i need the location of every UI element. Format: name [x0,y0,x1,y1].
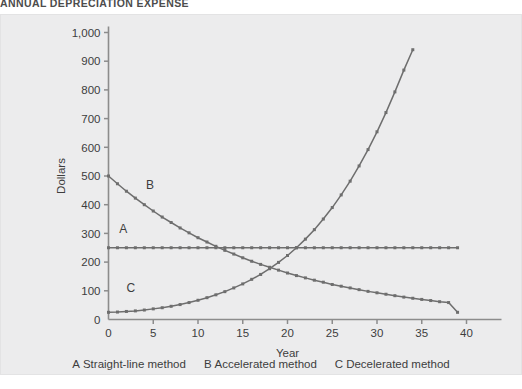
series-marker-c [214,293,217,296]
series-marker-c [304,238,307,241]
y-tick-label: 1,000 [72,27,101,39]
series-marker-a [179,246,182,249]
series-marker-c [277,261,280,264]
series-a [107,246,459,249]
series-marker-a [402,246,405,249]
series-marker-a [241,246,244,249]
series-marker-a [438,246,441,249]
series-marker-c [268,267,271,270]
series-marker-b [447,301,450,304]
series-marker-a [384,246,387,249]
series-marker-a [349,246,352,249]
series-marker-c [411,48,414,51]
y-tick-label: 500 [81,170,100,182]
series-marker-b [241,256,244,259]
series-marker-c [259,273,262,276]
series-marker-b [152,210,155,213]
series-marker-b [205,241,208,244]
series-marker-b [420,298,423,301]
x-tick-label: 20 [281,327,294,339]
series-marker-a [152,246,155,249]
series-marker-b [107,175,110,178]
series-marker-a [304,246,307,249]
series-marker-b [134,197,137,200]
series-marker-b [393,294,396,297]
series-marker-c [170,305,173,308]
series-marker-a [188,246,191,249]
series-marker-a [393,246,396,249]
series-marker-a [367,246,370,249]
series-marker-a [447,246,450,249]
series-marker-c [349,180,352,183]
y-tick-label: 700 [81,113,100,125]
legend-key-a: A [72,358,80,370]
chart-panel: 01002003004005006007008009001,0000510152… [0,14,522,375]
series-marker-b [438,300,441,303]
x-tick-label: 15 [236,327,249,339]
series-marker-b [411,297,414,300]
x-tick-label: 40 [460,327,473,339]
series-marker-b [402,296,405,299]
series-marker-b [143,203,146,206]
series-marker-b [250,260,253,263]
x-tick-label: 10 [192,327,205,339]
x-tick-label: 25 [326,327,339,339]
series-marker-c [143,309,146,312]
series-marker-c [223,290,226,293]
depreciation-line-chart: 01002003004005006007008009001,0000510152… [1,15,522,376]
series-marker-c [295,246,298,249]
series-marker-b [349,286,352,289]
series-marker-a [205,246,208,249]
series-marker-c [313,228,316,231]
series-marker-a [116,246,119,249]
series-marker-c [384,111,387,114]
series-marker-c [116,311,119,314]
series-marker-b [179,226,182,229]
series-marker-c [393,90,396,93]
series-marker-b [232,253,235,256]
series-marker-b [259,263,262,266]
series-marker-a [125,246,128,249]
series-marker-a [250,246,253,249]
legend-entry-a: AStraight-line method [72,358,186,370]
series-marker-a [170,246,173,249]
series-marker-a [429,246,432,249]
series-marker-b [197,236,200,239]
series-marker-c [358,164,361,167]
series-marker-c [125,310,128,313]
series-marker-b [331,283,334,286]
series-marker-c [376,130,379,133]
series-marker-a [268,246,271,249]
series-marker-b [125,190,128,193]
series-marker-c [241,282,244,285]
y-tick-label: 600 [81,142,100,154]
series-marker-b [116,182,119,185]
series-marker-c [232,286,235,289]
series-tag-c: C [126,281,135,295]
legend-label-a: Straight-line method [83,358,186,370]
series-marker-a [411,246,414,249]
series-marker-c [197,299,200,302]
x-axis-title: Year [276,347,299,359]
series-marker-a [456,246,459,249]
series-marker-a [107,246,110,249]
legend-entry-c: CDecelerated method [335,358,450,370]
series-marker-b [188,231,191,234]
y-axis-title: Dollars [55,158,67,194]
series-b [107,175,459,314]
series-marker-b [340,285,343,288]
series-marker-c [286,254,289,257]
series-marker-a [376,246,379,249]
y-tick-label: 100 [81,285,100,297]
series-marker-b [223,249,226,252]
page-title: ANNUAL DEPRECIATION EXPENSE [0,0,189,9]
series-marker-a [134,246,137,249]
series-marker-b [456,311,459,314]
series-marker-b [429,299,432,302]
series-marker-a [313,246,316,249]
series-tag-a: A [119,222,127,236]
series-marker-c [134,309,137,312]
series-marker-c [331,206,334,209]
series-marker-c [367,148,370,151]
series-marker-a [277,246,280,249]
